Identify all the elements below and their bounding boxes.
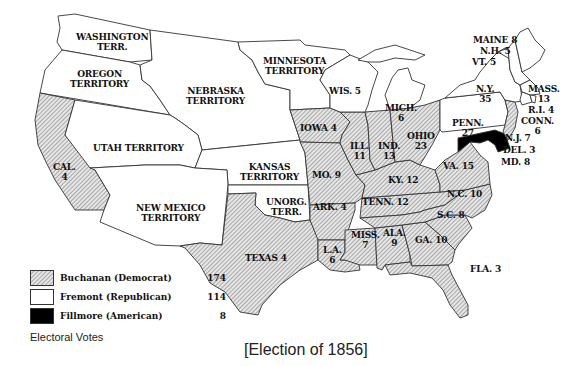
label-wisconsin: WIS. 5 <box>329 86 361 96</box>
label-alabama: ALA.9 <box>383 228 406 248</box>
label-new-mexico: NEW MEXICOTERRITORY <box>136 203 205 223</box>
label-iowa: IOWA 4 <box>300 123 337 133</box>
legend-item-fillmore: Fillmore (American) 8 <box>30 308 54 324</box>
label-mississippi: MISS.7 <box>351 230 380 250</box>
legend-heading: Electoral Votes <box>30 331 103 343</box>
label-texas: TEXAS 4 <box>245 253 287 263</box>
label-arkansas: ARK. 4 <box>313 202 347 212</box>
label-kentucky: KY. 12 <box>388 175 418 185</box>
map-caption: [Election of 1856] <box>244 341 368 359</box>
legend-item-fremont: Fremont (Republican) 114 <box>30 289 54 305</box>
label-oregon: OREGONTERRITORY <box>70 69 129 89</box>
legend-swatch-hatched <box>30 270 54 286</box>
label-new-york: N.Y.35 <box>476 84 494 104</box>
label-kansas: KANSASTERRITORY <box>240 162 299 182</box>
label-rhode-island: R.I. 4 <box>528 105 554 115</box>
label-massachusetts: MASS.13 <box>528 84 560 104</box>
label-vermont: VT. 5 <box>472 57 496 67</box>
label-california: CAL.4 <box>53 162 76 182</box>
label-washington: WASHINGTONTERR. <box>76 32 148 52</box>
label-nebraska: NEBRASKATERRITORY <box>186 86 245 106</box>
label-virginia: VA. 15 <box>443 161 474 171</box>
label-illinois: ILL.11 <box>350 141 369 161</box>
label-north-carolina: N.C. 10 <box>447 189 482 199</box>
label-utah: UTAH TERRITORY <box>93 143 184 153</box>
label-ohio: OHIO23 <box>407 131 435 151</box>
label-maryland: MD. 8 <box>501 157 530 167</box>
label-unorg: UNORG.TERR. <box>266 197 307 217</box>
label-indiana: IND.13 <box>378 141 400 161</box>
legend-item-buchanan: Buchanan (Democrat) 174 <box>30 270 54 286</box>
label-missouri: MO. 9 <box>312 170 341 180</box>
legend-swatch-black <box>30 308 54 324</box>
label-georgia: GA. 10 <box>415 235 447 245</box>
legend-swatch-white <box>30 289 54 305</box>
label-louisiana: L.A.6 <box>323 245 342 265</box>
label-tennessee: TENN. 12 <box>362 197 409 207</box>
label-maine: MAINE 8 <box>473 35 517 45</box>
label-new-hampshire: N.H. 5 <box>480 46 511 56</box>
region-florida <box>385 262 468 318</box>
label-new-jersey: N.J. 7 <box>505 133 531 143</box>
label-south-carolina: S.C. 8 <box>437 210 465 220</box>
label-michigan: MICH.6 <box>385 103 417 123</box>
label-delaware: DEL. 3 <box>503 145 535 155</box>
label-florida: FLA. 3 <box>470 264 501 274</box>
label-minnesota: MINNESOTATERRITORY <box>263 56 326 76</box>
label-pennsylvania: PENN.27 <box>452 118 484 138</box>
